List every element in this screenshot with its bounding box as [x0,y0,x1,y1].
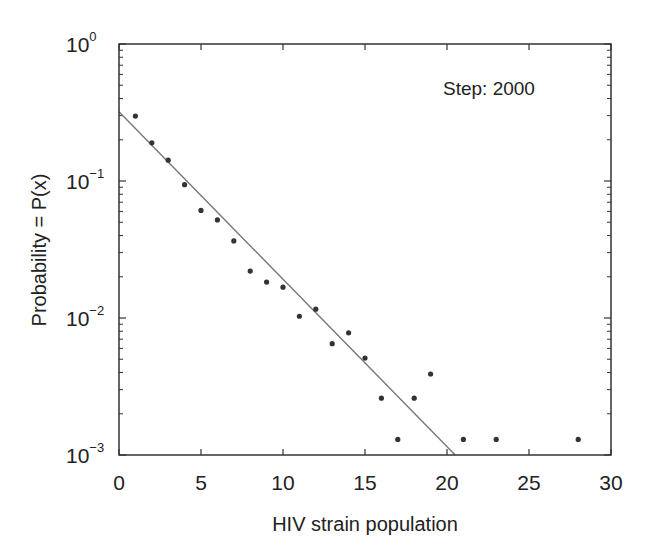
data-point [379,396,384,401]
data-point [346,330,351,335]
data-point [412,396,417,401]
data-point [494,437,499,442]
data-point [297,314,302,319]
data-point [166,158,171,163]
data-point [428,371,433,376]
y-tick-label: 10−1 [66,166,104,193]
data-points [133,113,581,442]
x-tick-label: 10 [271,471,294,494]
x-tick-label: 30 [599,471,622,494]
data-point [198,208,203,213]
data-point [231,238,236,243]
data-point [576,437,581,442]
y-tick-label: 10−2 [66,303,104,330]
plot-frame [119,44,611,455]
data-point [133,113,138,118]
y-tick-label: 10−3 [66,440,104,467]
data-point [362,355,367,360]
data-point [149,140,154,145]
step-annotation: Step: 2000 [443,78,535,99]
y-axis-title: Probability = P(x) [28,174,50,327]
x-tick-labels: 051015202530 [113,471,623,494]
y-tick-labels: 10010−110−210−3 [66,29,104,467]
data-point [182,182,187,187]
data-point [313,307,318,312]
x-tick-label: 20 [435,471,458,494]
data-point [215,217,220,222]
data-point [280,285,285,290]
x-tick-label: 15 [353,471,376,494]
data-point [330,341,335,346]
data-point [248,268,253,273]
data-point [264,279,269,284]
fit-line [119,112,455,455]
x-tick-label: 5 [195,471,207,494]
y-tick-label: 100 [66,29,97,56]
x-tick-label: 0 [113,471,125,494]
x-tick-label: 25 [517,471,540,494]
x-axis-title: HIV strain population [272,513,458,535]
chart: 051015202530 10010−110−210−3 Step: 2000 … [0,0,653,545]
major-ticks [119,44,611,455]
data-point [461,437,466,442]
data-point [395,437,400,442]
